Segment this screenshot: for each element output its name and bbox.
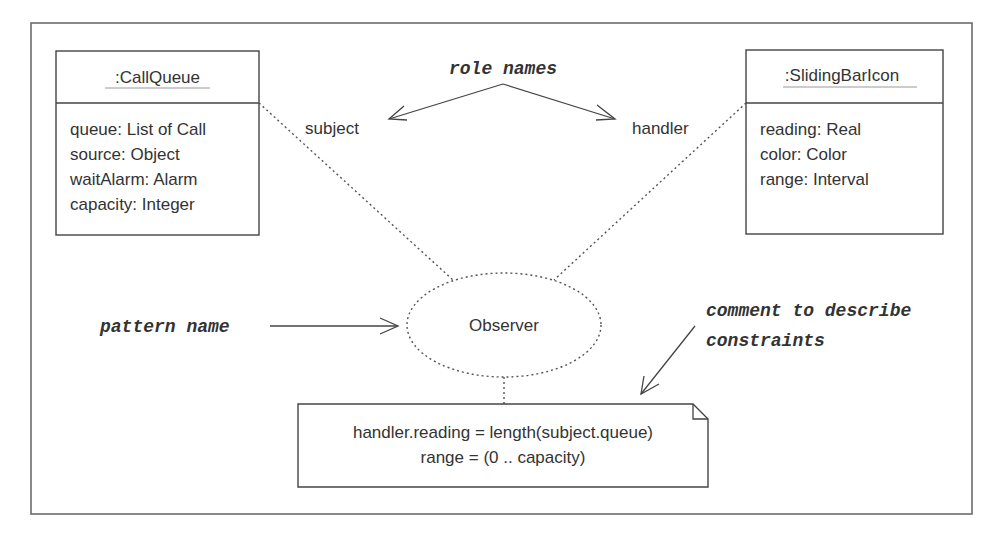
constraint-note-line: range = (0 .. capacity) (421, 448, 586, 467)
arrow-to-subject (389, 84, 503, 119)
constraint-note-line: handler.reading = length(subject.queue) (353, 423, 653, 442)
collaboration-observer-name: Observer (469, 316, 539, 335)
annotation-comment-line2: constraints (706, 331, 825, 351)
object-slidingbaricon: :SlidingBarIcon reading: Real color: Col… (746, 50, 943, 234)
annotation-role-names: role names (449, 59, 557, 79)
constraint-note-box (298, 404, 708, 487)
object-slidingbaricon-attr: reading: Real (760, 120, 861, 139)
object-slidingbaricon-name: :SlidingBarIcon (785, 66, 899, 85)
annotation-comment-line1: comment to describe (706, 301, 911, 321)
comment-arrow (641, 326, 695, 394)
pattern-name-arrow (270, 318, 398, 334)
object-slidingbaricon-attr: range: Interval (760, 170, 869, 189)
object-callqueue-attr: source: Object (70, 145, 180, 164)
object-slidingbaricon-attr: color: Color (760, 145, 847, 164)
object-callqueue-name: :CallQueue (115, 68, 200, 87)
arrow-to-note (641, 326, 695, 394)
constraint-note: handler.reading = length(subject.queue) … (298, 404, 708, 487)
role-names-arrows (389, 84, 615, 120)
object-callqueue-attr: capacity: Integer (70, 195, 195, 214)
diagram-canvas: :CallQueue queue: List of Call source: O… (0, 0, 1006, 544)
object-callqueue: :CallQueue queue: List of Call source: O… (56, 51, 259, 235)
arrow-to-handler (503, 84, 615, 119)
annotation-pattern-name: pattern name (99, 317, 230, 337)
object-callqueue-attr: waitAlarm: Alarm (69, 170, 198, 189)
role-label-handler: handler (632, 119, 689, 138)
role-label-subject: subject (305, 119, 359, 138)
object-callqueue-attr: queue: List of Call (70, 120, 206, 139)
